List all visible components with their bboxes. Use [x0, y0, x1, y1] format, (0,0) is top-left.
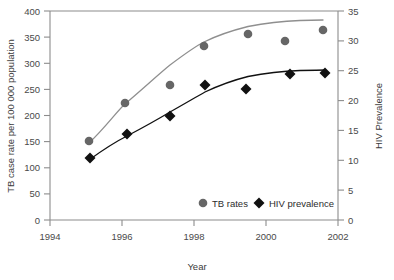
legend-label-tb-rates: TB rates: [212, 198, 248, 209]
data-point: [244, 30, 253, 39]
y2-tick-35: 35: [338, 6, 359, 17]
x-tick-label: 1998: [183, 231, 204, 242]
axes-group: [50, 11, 338, 220]
y-axis-right-ticks: 35 30 25 20 15 10: [338, 6, 359, 226]
y-tick-label: 300: [24, 58, 40, 69]
y-tick-label: 50: [29, 188, 40, 199]
data-point: [85, 153, 96, 164]
y-tick-400: 400: [24, 6, 50, 17]
data-point: [281, 37, 290, 46]
y2-tick-label: 10: [348, 155, 359, 166]
y-axis-left-title: TB case rate per 100 000 population: [5, 39, 16, 193]
y2-tick-10: 10: [338, 155, 359, 166]
y2-tick-25: 25: [338, 65, 359, 76]
data-point: [241, 84, 252, 95]
x-tick-label: 1994: [39, 231, 60, 242]
x-tick-label: 2000: [255, 231, 276, 242]
y2-tick-label: 30: [348, 35, 359, 46]
data-point: [200, 80, 211, 91]
y2-tick-label: 5: [348, 185, 353, 196]
x-tick-2000: 2000: [255, 220, 276, 242]
y-tick-150: 150: [24, 136, 50, 147]
y-tick-100: 100: [24, 162, 50, 173]
y2-tick-label: 0: [348, 215, 353, 226]
y-axis-right-title: HIV Prevalence: [373, 83, 384, 149]
y-tick-label: 400: [24, 6, 40, 17]
data-point: [320, 68, 331, 79]
x-tick-1998: 1998: [183, 220, 204, 242]
x-tick-1996: 1996: [111, 220, 132, 242]
chart-container: 400 350 300 250 200 150: [0, 0, 394, 280]
legend-marker-diamond-icon: [254, 198, 265, 209]
y2-tick-label: 25: [348, 65, 359, 76]
y-tick-label: 250: [24, 84, 40, 95]
y-tick-250: 250: [24, 84, 50, 95]
legend-label-hiv-prevalence: HIV prevalence: [269, 198, 334, 209]
x-tick-label: 1996: [111, 231, 132, 242]
x-tick-2002: 2002: [327, 220, 348, 242]
y-axis-left-ticks: 400 350 300 250 200 150: [24, 6, 50, 226]
data-point: [200, 42, 209, 51]
y2-tick-0: 0: [338, 215, 353, 226]
y-tick-label: 100: [24, 162, 40, 173]
y-tick-0: 0: [35, 215, 50, 226]
x-tick-1994: 1994: [39, 220, 60, 242]
y-tick-label: 150: [24, 136, 40, 147]
y2-tick-15: 15: [338, 125, 359, 136]
y-tick-label: 350: [24, 32, 40, 43]
y-tick-50: 50: [29, 188, 50, 199]
y-tick-200: 200: [24, 110, 50, 121]
data-point: [319, 26, 328, 35]
y2-tick-30: 30: [338, 35, 359, 46]
data-point: [166, 81, 175, 90]
data-point: [121, 99, 130, 108]
y2-tick-label: 20: [348, 95, 359, 106]
data-point: [85, 137, 94, 146]
y-tick-label: 200: [24, 110, 40, 121]
hiv-prevalence-markers: [85, 68, 331, 164]
x-tick-label: 2002: [327, 231, 348, 242]
x-axis-title: Year: [187, 261, 206, 272]
chart-svg: 400 350 300 250 200 150: [0, 0, 394, 280]
data-point: [165, 111, 176, 122]
y-tick-300: 300: [24, 58, 50, 69]
legend-marker-circle-icon: [199, 199, 208, 208]
y2-tick-label: 15: [348, 125, 359, 136]
x-axis-ticks: 1994 1996 1998 2000 2002: [39, 220, 348, 242]
y2-tick-20: 20: [338, 95, 359, 106]
y-tick-350: 350: [24, 32, 50, 43]
y-tick-label: 0: [35, 215, 40, 226]
y2-tick-5: 5: [338, 185, 353, 196]
y2-tick-label: 35: [348, 6, 359, 17]
chart-legend: TB rates HIV prevalence: [199, 198, 334, 209]
